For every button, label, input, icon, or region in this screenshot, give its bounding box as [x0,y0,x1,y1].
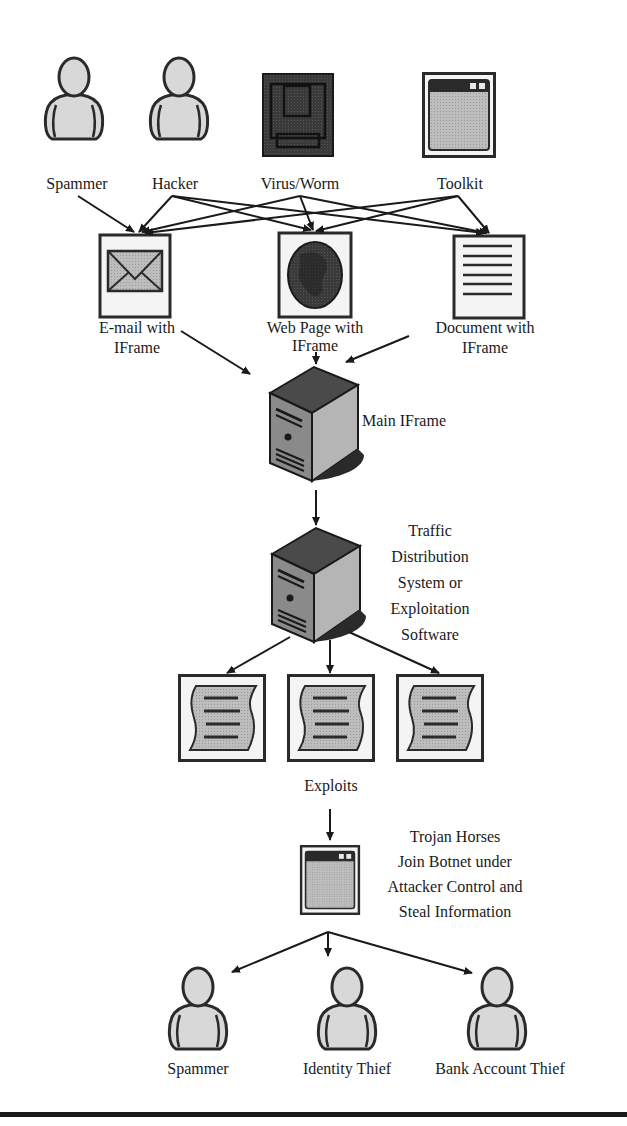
person-icon [169,968,226,1049]
person-icon [318,968,375,1049]
label-trojan-line3: Attacker Control and [360,877,550,896]
iframe-attack-flow-diagram [0,0,627,1126]
vector-webpage [279,233,351,317]
exploit-page-icon [398,676,483,761]
source-hacker [150,58,207,139]
source-spammer [45,58,102,139]
label-virus-worm: Virus/Worm [240,174,360,193]
label-tds-line5: Software [370,625,490,644]
vector-document [454,236,524,318]
label-toolkit: Toolkit [410,174,510,193]
label-tds-line2: Distribution [370,547,490,566]
main-iframe-server-icon [270,367,364,481]
label-tds-line3: System or [370,573,490,592]
label-exploits: Exploits [281,776,381,795]
label-webpage-line1: Web Page with [240,318,390,337]
person-icon [468,968,525,1049]
label-tds-line1: Traffic [370,521,490,540]
label-outcome-identity-thief: Identity Thief [282,1059,412,1078]
label-trojan-line1: Trojan Horses [360,827,550,846]
window-icon [424,74,495,157]
person-icon [45,58,102,139]
label-hacker: Hacker [125,174,225,193]
label-outcome-bank-account-thief: Bank Account Thief [420,1059,580,1078]
label-tds-line4: Exploitation [370,599,490,618]
label-document-line1: Document with [410,318,560,337]
label-trojan-line2: Join Botnet under [360,852,550,871]
exploit-page-icon [180,676,265,761]
bottom-rule [0,1112,627,1117]
source-toolkit [424,74,495,157]
label-email-line1: E-mail with [72,318,202,337]
label-document-line2: IFrame [410,338,560,357]
vector-email [100,235,170,317]
label-main-iframe: Main IFrame [362,411,446,430]
label-webpage-line2: IFrame [240,336,390,355]
exploit-page-icon [289,676,374,761]
source-virus-worm [263,74,333,156]
person-icon [150,58,207,139]
edges-sources-to-vectors [78,196,489,233]
label-spammer: Spammer [27,174,127,193]
label-outcome-spammer: Spammer [143,1059,253,1078]
label-trojan-line4: Steal Information [360,902,550,921]
tds-server-icon [272,528,366,642]
trojan-window-icon [301,846,359,914]
label-email-line2: IFrame [72,338,202,357]
